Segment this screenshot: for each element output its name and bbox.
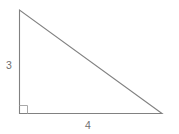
- right-angle-marker: [20, 106, 28, 114]
- figure-canvas: 3 4: [0, 0, 179, 134]
- right-triangle-figure: 3 4: [0, 0, 179, 134]
- triangle-outline: [20, 10, 163, 114]
- horizontal-leg-label: 4: [85, 119, 91, 131]
- vertical-leg-label: 3: [6, 59, 12, 71]
